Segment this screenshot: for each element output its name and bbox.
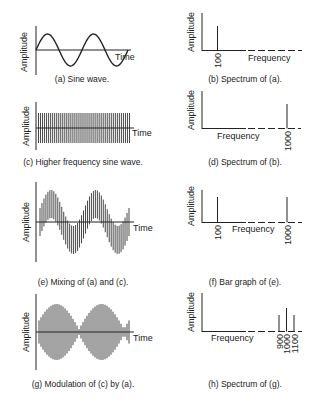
x-axis-label: Time — [115, 52, 135, 62]
y-axis-label: Amplitude — [186, 186, 196, 226]
x-axis-label: Time — [133, 223, 153, 233]
panel-g: Amplitude Time (g) Modulation of (c) by … — [21, 294, 153, 389]
tick-label-1000: 1000 — [283, 225, 293, 245]
tick-label-100: 100 — [213, 53, 223, 68]
x-axis-label: Frequency — [217, 131, 260, 141]
panel-a: Amplitude Time (a) Sine wave. — [19, 26, 135, 84]
caption: (c) Higher frequency sine wave. — [23, 157, 143, 167]
panel-d: 1000 Amplitude Frequency (d) Spectrum of… — [186, 90, 301, 167]
x-axis-label: Frequency — [232, 224, 275, 234]
caption: (h) Spectrum of (g). — [208, 379, 282, 389]
x-axis-label: Time — [132, 128, 152, 138]
panel-h: 900 1000 1100 Amplitude Frequency (h) Sp… — [186, 292, 302, 389]
tick-label-100: 100 — [213, 225, 223, 240]
y-axis-label: Amplitude — [186, 292, 196, 332]
y-axis-label: Amplitude — [21, 106, 31, 146]
caption: (d) Spectrum of (b). — [208, 157, 282, 167]
panel-b: 100 Amplitude Frequency (b) Spectrum of … — [186, 12, 302, 84]
signal-diagram: Amplitude Time (a) Sine wave. 100 Amplit… — [0, 0, 317, 407]
caption: (f) Bar graph of (e). — [209, 277, 281, 287]
x-axis-label: Time — [133, 333, 153, 343]
caption: (a) Sine wave. — [55, 74, 109, 84]
y-axis-label: Amplitude — [21, 312, 31, 352]
panel-e: Amplitude Time (e) Mixing of (a) and (c)… — [21, 182, 153, 287]
caption: (e) Mixing of (a) and (c). — [38, 277, 129, 287]
tick-label-1100: 1100 — [290, 334, 300, 353]
y-axis-label: Amplitude — [186, 12, 196, 52]
caption: (b) Spectrum of (a). — [208, 74, 282, 84]
y-axis-label: Amplitude — [186, 90, 196, 130]
caption: (g) Modulation of (c) by (a). — [32, 379, 135, 389]
tick-label-1000: 1000 — [283, 131, 293, 151]
y-axis-label: Amplitude — [21, 202, 31, 242]
x-axis-label: Frequency — [211, 333, 254, 343]
panel-f: 100 1000 Amplitude Frequency (f) Bar gra… — [186, 186, 302, 287]
y-axis-label: Amplitude — [19, 32, 29, 72]
panel-c: Amplitude Time (c) Higher frequency sine… — [21, 102, 152, 167]
x-axis-label: Frequency — [248, 53, 291, 63]
